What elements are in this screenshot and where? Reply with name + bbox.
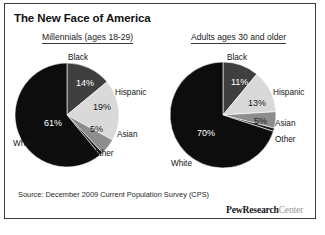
pie-value-label: 70% [197, 128, 215, 138]
pie-chart-millennials: 14%19%5%61% BlackHispanicAsianOtherWhite [9, 48, 161, 184]
pew-research-center-logo: PewResearchCenter [226, 204, 303, 215]
figure-container: The New Face of America Millennials (age… [4, 3, 316, 219]
pie-value-label: 5% [90, 124, 103, 134]
pie-category-label-black: Black [227, 53, 248, 62]
pie-category-label-hispanic: Hispanic [273, 88, 304, 97]
pie-category-label-black: Black [68, 53, 89, 62]
panel-heading-millennials: Millennials (ages 18-29) [42, 32, 133, 44]
pie-category-label-asian: Asian [117, 130, 138, 139]
pie-value-label: 61% [44, 118, 62, 128]
panel-heading-adults: Adults ages 30 and older [191, 32, 286, 44]
pie-value-label: 14% [76, 78, 94, 88]
pie-category-label-other: Other [93, 149, 114, 158]
brand-primary-text: PewResearch [226, 204, 279, 215]
pie-value-label: 19% [93, 102, 111, 112]
pie-slices-right [170, 62, 276, 168]
source-note: Source: December 2009 Current Population… [18, 190, 209, 199]
pie-category-label-white: White [171, 159, 192, 168]
pie-category-label-hispanic: Hispanic [115, 88, 146, 97]
pie-value-label: 5% [254, 116, 267, 126]
pie-chart-adults-svg: 11%13%5%70% BlackHispanicAsianOtherWhite [163, 48, 315, 184]
brand-secondary-text: Center [279, 204, 303, 215]
pie-category-label-white: White [13, 139, 34, 148]
pie-value-label: 11% [231, 77, 248, 87]
pie-chart-adults: 11%13%5%70% BlackHispanicAsianOtherWhite [163, 48, 315, 184]
page-title: The New Face of America [14, 12, 151, 24]
pie-chart-millennials-svg: 14%19%5%61% BlackHispanicAsianOtherWhite [9, 48, 161, 184]
pie-category-label-asian: Asian [275, 119, 296, 128]
pie-value-label: 13% [248, 98, 266, 108]
pie-category-label-other: Other [275, 135, 296, 144]
